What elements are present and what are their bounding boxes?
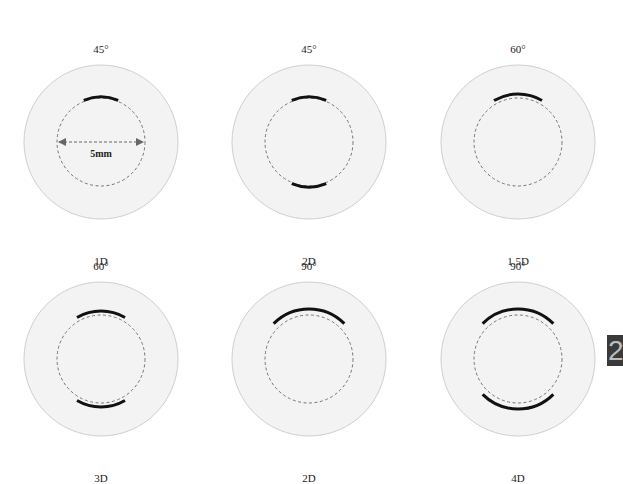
cornea-circle	[232, 65, 386, 219]
chapter-tab: 2	[607, 335, 623, 366]
diagram-panel-4: 60° 3D	[1, 260, 201, 480]
cornea-circle	[441, 282, 595, 436]
cornea-circle	[441, 65, 595, 219]
diagram-panel-1: 45° 5mm 1D	[1, 43, 201, 263]
cornea-diagram	[418, 57, 618, 227]
arc-angle-label: 60°	[1, 260, 201, 272]
cornea-circle	[24, 282, 178, 436]
arc-angle-label: 90°	[209, 260, 409, 272]
correction-power-label: 2D	[209, 472, 409, 484]
diagram-panel-2: 45° 2D	[209, 43, 409, 263]
cornea-diagram	[1, 57, 201, 227]
diagram-panel-6: 90° 4D	[418, 260, 618, 480]
cornea-diagram	[1, 274, 201, 444]
diagram-panel-5: 90° 2D	[209, 260, 409, 480]
dimension-label: 5mm	[1, 148, 201, 159]
arc-angle-label: 45°	[1, 43, 201, 55]
arc-angle-label: 45°	[209, 43, 409, 55]
diagram-panel-3: 60° 1.5D	[418, 43, 618, 263]
cornea-circle	[232, 282, 386, 436]
cornea-diagram	[209, 57, 409, 227]
correction-power-label: 4D	[418, 472, 618, 484]
arc-angle-label: 60°	[418, 43, 618, 55]
chapter-number: 2	[608, 335, 623, 366]
cornea-diagram	[418, 274, 618, 444]
correction-power-label: 3D	[1, 472, 201, 484]
arc-angle-label: 90°	[418, 260, 618, 272]
cornea-diagram	[209, 274, 409, 444]
